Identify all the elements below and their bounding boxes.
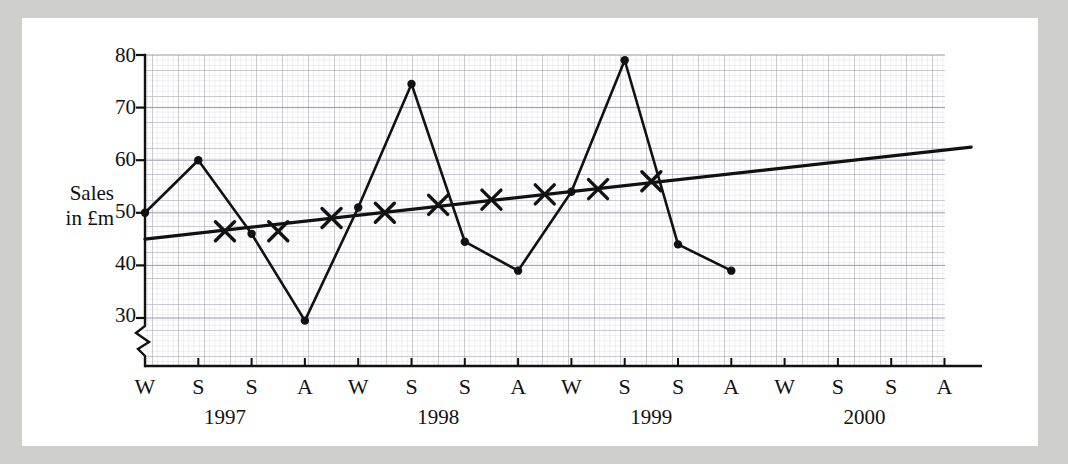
- x-tick-label-1: S: [192, 374, 204, 399]
- sales-point-3: [301, 316, 309, 324]
- year-label-2000: 2000: [844, 405, 886, 429]
- sales-point-11: [727, 266, 735, 274]
- x-tick-label-10: S: [672, 374, 684, 399]
- year-label-1999: 1999: [630, 405, 672, 429]
- sales-point-8: [567, 188, 575, 196]
- y-axis-title-line2: in £m: [66, 206, 114, 230]
- plot-grid: [145, 55, 945, 366]
- sales-point-4: [354, 203, 362, 211]
- chart-paper: 80 70 60 50 40 30 Sales in £m WSSAWSSAWS…: [22, 18, 1038, 446]
- y-tick-label-80: 80: [115, 43, 136, 67]
- sales-point-1: [194, 156, 202, 164]
- x-tick-label-0: W: [135, 374, 156, 399]
- x-tick-label-12: W: [774, 374, 795, 399]
- x-tick-label-6: S: [459, 374, 471, 399]
- sales-point-10: [674, 240, 682, 248]
- x-tick-label-4: W: [348, 374, 369, 399]
- sales-point-6: [461, 238, 469, 246]
- year-label-1997: 1997: [204, 405, 246, 429]
- x-tick-label-3: A: [297, 374, 313, 399]
- x-tick-label-13: S: [832, 374, 844, 399]
- y-tick-label-30: 30: [115, 303, 136, 327]
- y-axis-title-line1: Sales: [70, 181, 114, 205]
- x-axis-tick-labels: WSSAWSSAWSSAWSSA: [135, 374, 953, 399]
- y-tick-label-40: 40: [115, 251, 136, 275]
- y-axis-tick-labels: 80 70 60 50 40 30: [115, 43, 136, 327]
- x-tick-label-8: W: [561, 374, 582, 399]
- y-tick-label-60: 60: [115, 147, 136, 171]
- y-axis-title: Sales in £m: [66, 181, 114, 230]
- x-tick-label-9: S: [619, 374, 631, 399]
- x-tick-label-15: A: [937, 374, 953, 399]
- x-axis-year-labels: 1997199819992000: [204, 405, 886, 429]
- sales-point-9: [621, 56, 629, 64]
- y-tick-label-50: 50: [115, 199, 136, 223]
- sales-point-2: [247, 230, 255, 238]
- x-tick-label-5: S: [405, 374, 417, 399]
- y-tick-marks: [136, 55, 145, 318]
- x-tick-label-2: S: [245, 374, 257, 399]
- sales-line-chart: 80 70 60 50 40 30 Sales in £m WSSAWSSAWS…: [22, 18, 1038, 446]
- x-tick-label-14: S: [885, 374, 897, 399]
- x-tick-label-7: A: [510, 374, 526, 399]
- year-label-1998: 1998: [417, 405, 459, 429]
- sales-point-0: [141, 209, 149, 217]
- y-tick-label-70: 70: [115, 95, 136, 119]
- x-tick-label-11: A: [723, 374, 739, 399]
- sales-point-7: [514, 266, 522, 274]
- sales-point-5: [407, 80, 415, 88]
- chart-svg: 80 70 60 50 40 30 Sales in £m WSSAWSSAWS…: [22, 18, 1038, 446]
- screenshot-root: 80 70 60 50 40 30 Sales in £m WSSAWSSAWS…: [0, 0, 1068, 464]
- grid-background: [145, 55, 945, 366]
